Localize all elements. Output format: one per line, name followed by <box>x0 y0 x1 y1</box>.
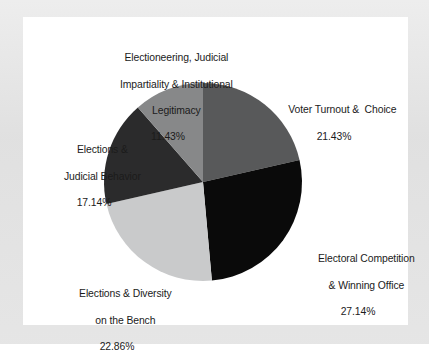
pie-label-judicial-behavior-line1: Elections & <box>77 144 128 155</box>
pie-label-elections-diversity: Elections & Diversity on the Bench 22.86… <box>37 274 197 354</box>
pie-label-electoral-competition-line2: & Winning Office <box>329 280 405 291</box>
pie-chart-plot-area: Electioneering, Judicial Impartiality & … <box>23 17 408 325</box>
pie-label-voter-turnout-line1: Voter Turnout & Choice <box>288 104 396 115</box>
pie-label-judicial-behavior-line2: Judicial Behavior <box>64 171 141 182</box>
pie-label-electoral-competition-line1: Electoral Competition <box>318 253 415 264</box>
pie-value-elections-diversity: 22.86% <box>37 340 197 353</box>
pie-value-voter-turnout: 21.43% <box>245 130 423 143</box>
pie-label-electioneering-line3: Legitimacy <box>152 105 201 116</box>
pie-value-judicial-behavior: 17.14% <box>33 196 155 209</box>
pie-label-electoral-competition: Electoral Competition & Winning Office 2… <box>285 239 429 345</box>
pie-label-judicial-behavior: Elections & Judicial Behavior 17.14% <box>33 130 155 236</box>
pie-label-electioneering-line1: Electioneering, Judicial <box>124 52 228 63</box>
pie-label-voter-turnout: Voter Turnout & Choice 21.43% <box>245 90 423 169</box>
pie-label-electioneering-line2: Impartiality & Institutional <box>120 79 233 90</box>
pie-value-electoral-competition: 27.14% <box>285 305 429 318</box>
pie-label-elections-diversity-line1: Elections & Diversity <box>79 288 172 299</box>
pie-label-elections-diversity-line2: on the Bench <box>95 315 155 326</box>
